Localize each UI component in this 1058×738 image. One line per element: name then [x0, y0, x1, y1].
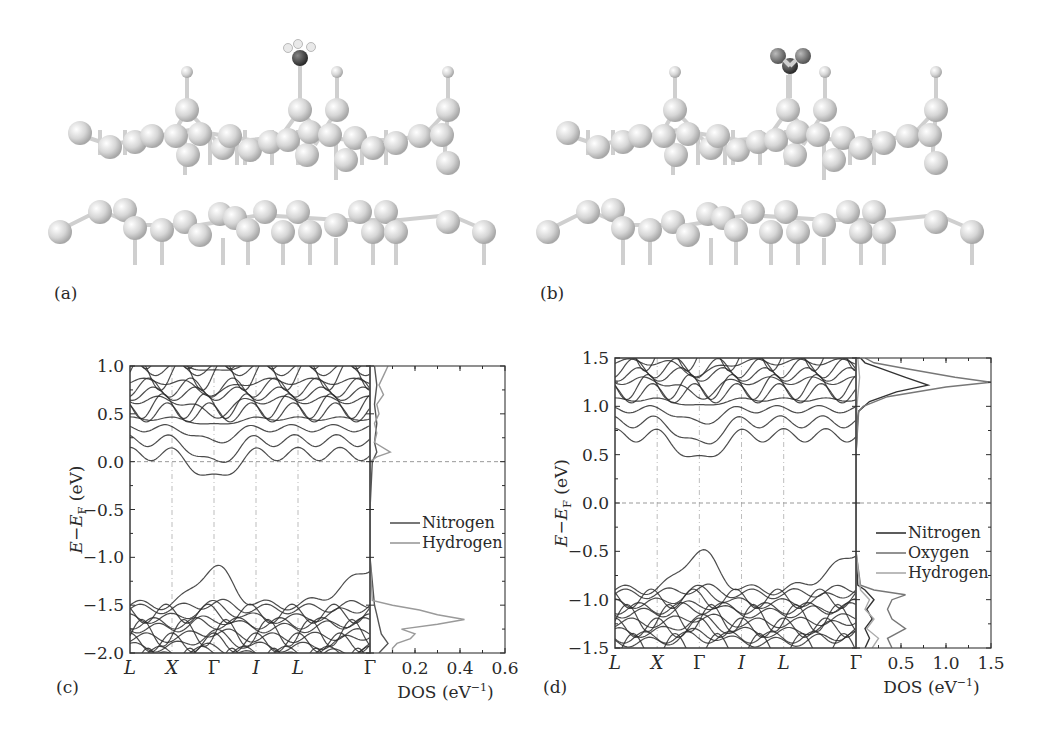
- k-point-label: I: [737, 652, 746, 673]
- dos-tick-label: 1.0: [932, 653, 959, 673]
- y-tick-label: −0.5: [568, 541, 609, 561]
- y-tick-label: −1.5: [568, 638, 609, 658]
- k-point-label: Γ: [693, 652, 706, 673]
- y-tick-label: −1.0: [568, 590, 609, 610]
- band-structure-chart-d: 1.51.00.50.0−0.5−1.0−1.5E−EF (eV)LXΓILΓ0…: [0, 0, 1058, 738]
- k-point-label: Γ: [850, 652, 863, 673]
- dos-axis-label: DOS (eV−1): [883, 676, 979, 697]
- k-point-label: L: [777, 652, 790, 673]
- y-tick-label: 1.0: [582, 396, 609, 416]
- y-tick-label: 1.5: [582, 348, 609, 368]
- y-axis-label: E−EF (eV): [551, 459, 574, 548]
- legend-item-hydrogen: Hydrogen: [908, 563, 989, 582]
- legend-item-nitrogen: Nitrogen: [908, 523, 981, 542]
- y-tick-label: 0.5: [582, 445, 609, 465]
- k-point-label: L: [608, 652, 621, 673]
- k-point-label: X: [649, 652, 665, 673]
- y-tick-label: 0.0: [582, 493, 609, 513]
- dos-tick-label: 1.5: [977, 653, 1004, 673]
- dos-tick-label: 0.5: [887, 653, 914, 673]
- legend-item-oxygen: Oxygen: [908, 543, 969, 562]
